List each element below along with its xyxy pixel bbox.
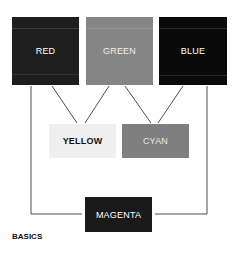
node-blue: BLUE bbox=[159, 17, 227, 85]
edge-blue-cyan bbox=[158, 86, 183, 123]
edge-red-yellow bbox=[52, 86, 77, 123]
edge-green-cyan bbox=[125, 86, 151, 123]
diagram-caption: BASICS bbox=[12, 232, 42, 241]
node-label-cyan: CYAN bbox=[143, 136, 168, 146]
node-label-blue: BLUE bbox=[181, 46, 205, 56]
node-green: GREEN bbox=[86, 17, 153, 85]
edge-green-yellow bbox=[85, 86, 109, 123]
node-label-yellow: YELLOW bbox=[63, 136, 103, 146]
node-label-green: GREEN bbox=[103, 46, 136, 56]
node-magenta: MAGENTA bbox=[85, 197, 152, 232]
node-red: RED bbox=[12, 17, 79, 85]
node-cyan: CYAN bbox=[122, 124, 189, 158]
node-label-red: RED bbox=[36, 46, 56, 56]
node-label-magenta: MAGENTA bbox=[96, 210, 141, 220]
node-yellow: YELLOW bbox=[49, 124, 116, 158]
